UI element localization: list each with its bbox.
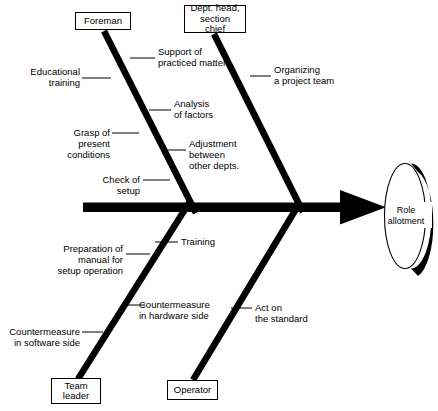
bone-operator — [193, 204, 299, 380]
category-box-foreman[interactable]: Foreman — [75, 12, 131, 30]
category-label-foreman: Foreman — [84, 16, 122, 27]
category-label-team-leader: Team leader — [63, 381, 89, 402]
category-box-team-leader[interactable]: Team leader — [51, 378, 101, 404]
cause-label-grasp-present-conditions: Grasp of present conditions — [66, 127, 110, 160]
bone-team-leader — [78, 203, 189, 379]
cause-label-analysis-of-factors: Analysis of factors — [174, 98, 236, 120]
cause-label-preparation-of-manual: Preparation of manual for setup operatio… — [53, 243, 123, 276]
cause-label-countermeasure-software: Countermeasure in software side — [6, 326, 80, 348]
category-label-dept-head: Dept. head, section chief — [189, 3, 241, 35]
cause-label-support-practiced-matters: Support of practiced matters — [158, 46, 246, 68]
cause-label-check-of-setup: Check of setup — [92, 174, 140, 196]
cause-label-act-on-standard: Act on the standard — [255, 302, 325, 324]
category-box-dept-head[interactable]: Dept. head, section chief — [184, 5, 246, 33]
cause-label-organizing-project-team: Organizing a project team — [274, 64, 358, 86]
cause-label-countermeasure-hardware: Countermeasure in hardware side — [139, 299, 227, 321]
fishbone-diagram: Foreman Dept. head, section chief Team l… — [0, 0, 438, 411]
cause-label-adjustment-other-depts: Adjustment between other depts. — [189, 138, 257, 171]
effect-label: Role allotment — [386, 205, 426, 226]
cause-label-educational-training: Educational training — [20, 66, 80, 88]
category-label-operator: Operator — [174, 385, 212, 396]
spine-arrowhead — [340, 190, 386, 225]
category-box-operator[interactable]: Operator — [167, 380, 218, 400]
cause-label-training: Training — [181, 236, 235, 247]
